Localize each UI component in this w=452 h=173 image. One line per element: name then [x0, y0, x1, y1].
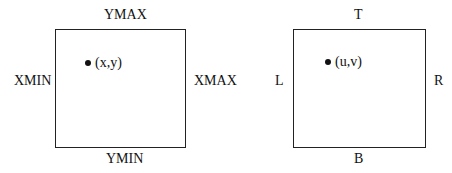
viewport-box	[293, 29, 426, 148]
label-ymin: YMIN	[106, 152, 143, 166]
label-ymax: YMAX	[104, 8, 147, 22]
label-t: T	[354, 8, 363, 22]
label-r: R	[434, 74, 443, 88]
label-l: L	[275, 74, 284, 88]
label-xmin: XMIN	[14, 74, 51, 88]
label-xmax: XMAX	[194, 74, 237, 88]
point-marker	[85, 60, 91, 66]
label-point-xy: (x,y)	[95, 56, 122, 70]
label-point-uv: (u,v)	[335, 55, 362, 69]
world-window-box	[55, 29, 186, 148]
label-b: B	[354, 152, 363, 166]
point-marker	[325, 59, 331, 65]
